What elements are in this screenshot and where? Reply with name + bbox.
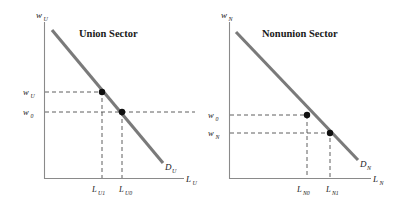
union-point-w0-lu0 bbox=[119, 109, 125, 115]
nonunion-xtick-ln0-sub: N0 bbox=[302, 190, 310, 196]
nonunion-ytick-w0: w 0 bbox=[208, 110, 219, 122]
nonunion-panel-title: Nonunion Sector bbox=[262, 28, 338, 39]
union-xtick-lu1-sub: U1 bbox=[98, 190, 105, 196]
union-ytick-w0: w 0 bbox=[23, 107, 34, 119]
union-curve-label: D U bbox=[164, 162, 177, 174]
nonunion-x-axis-label-sub: N bbox=[379, 180, 385, 186]
nonunion-x-axis-label: L N bbox=[372, 174, 385, 186]
nonunion-x-axis-label-base: L bbox=[372, 174, 378, 184]
nonunion-curve-label-base: D bbox=[359, 159, 367, 169]
nonunion-point-wn-ln1 bbox=[327, 130, 333, 136]
nonunion-y-axis-label-sub: N bbox=[228, 16, 234, 22]
union-point-wu-lu1 bbox=[99, 89, 105, 95]
union-xtick-lu0: L U0 bbox=[118, 184, 132, 196]
nonunion-curve-label: D N bbox=[359, 159, 372, 171]
union-ytick-wu-base: w bbox=[23, 87, 29, 97]
nonunion-xtick-ln1-base: L bbox=[325, 184, 331, 194]
nonunion-xtick-ln0: L N0 bbox=[296, 184, 310, 196]
union-panel-title: Union Sector bbox=[79, 28, 138, 39]
union-ytick-w0-base: w bbox=[23, 107, 29, 117]
union-y-axis-label-base: w bbox=[36, 10, 42, 20]
union-xtick-lu0-sub: U0 bbox=[125, 190, 132, 196]
nonunion-xtick-ln1: L N1 bbox=[325, 184, 339, 196]
union-xtick-lu1-base: L bbox=[91, 184, 97, 194]
panel-union: Union Sector w U L U D U w U w 0 L U1 bbox=[23, 10, 198, 196]
union-x-axis-label-sub: U bbox=[193, 180, 198, 186]
nonunion-ytick-wn-sub: N bbox=[215, 134, 221, 140]
union-xtick-lu1: L U1 bbox=[91, 184, 105, 196]
nonunion-ytick-w0-base: w bbox=[208, 110, 214, 120]
union-ytick-wu: w U bbox=[23, 87, 36, 99]
nonunion-curve-label-sub: N bbox=[366, 165, 372, 171]
union-y-axis-label: w U bbox=[36, 10, 49, 22]
panel-nonunion: Nonunion Sector w N L N D N w 0 w N L bbox=[208, 10, 385, 196]
union-xtick-lu0-base: L bbox=[118, 184, 124, 194]
union-demand-curve bbox=[52, 30, 163, 163]
union-x-axis-label-base: L bbox=[185, 174, 191, 184]
nonunion-xtick-ln0-base: L bbox=[296, 184, 302, 194]
nonunion-xtick-ln1-sub: N1 bbox=[331, 190, 339, 196]
nonunion-ytick-w0-sub: 0 bbox=[216, 116, 219, 122]
union-ytick-w0-sub: 0 bbox=[31, 113, 34, 119]
union-curve-label-base: D bbox=[164, 162, 172, 172]
union-y-axis-label-sub: U bbox=[44, 16, 49, 22]
nonunion-guide-wn-ln1 bbox=[230, 133, 330, 178]
nonunion-y-axis-label-base: w bbox=[221, 10, 227, 20]
nonunion-point-w0-ln0 bbox=[304, 112, 310, 118]
nonunion-ytick-wn: w N bbox=[208, 128, 221, 140]
nonunion-ytick-wn-base: w bbox=[208, 128, 214, 138]
nonunion-y-axis-label: w N bbox=[221, 10, 234, 22]
union-ytick-wu-sub: U bbox=[31, 93, 36, 99]
two-panel-labor-demand-figure: Union Sector w U L U D U w U w 0 L U1 bbox=[0, 0, 407, 208]
nonunion-guide-w0-ln0 bbox=[230, 115, 307, 178]
union-guide-wu-lu1 bbox=[45, 92, 102, 178]
nonunion-demand-curve bbox=[236, 32, 358, 160]
figure-canvas: Union Sector w U L U D U w U w 0 L U1 bbox=[0, 0, 407, 208]
union-curve-label-sub: U bbox=[172, 168, 177, 174]
union-x-axis-label: L U bbox=[185, 174, 198, 186]
